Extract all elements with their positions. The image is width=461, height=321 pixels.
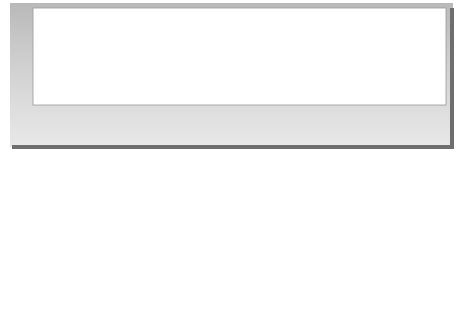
energy-diagram	[0, 0, 461, 321]
frame-right-edge	[450, 8, 454, 148]
frame-bottom-edge	[12, 145, 454, 149]
plot-area	[33, 8, 446, 105]
